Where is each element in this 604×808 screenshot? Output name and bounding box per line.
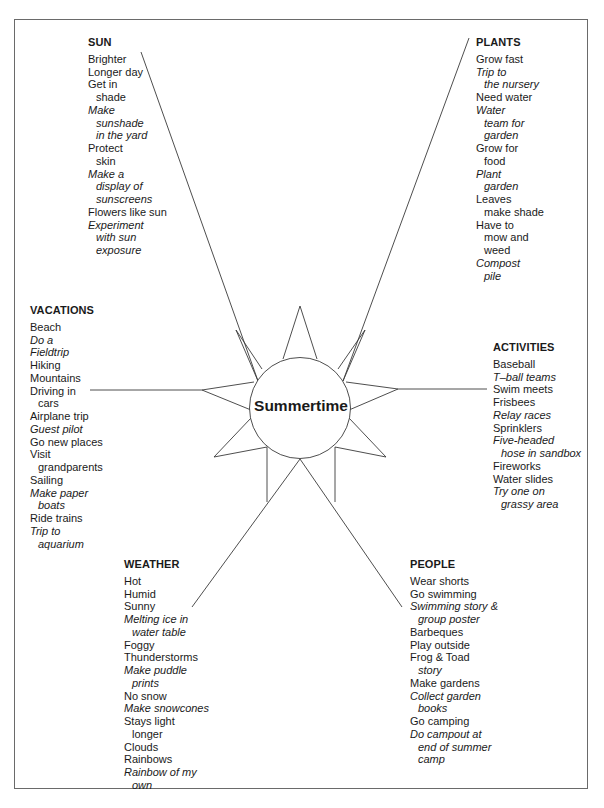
- item-text: Relay races: [493, 409, 581, 422]
- connector-people: [300, 459, 402, 607]
- item-text: Sailing: [30, 474, 103, 487]
- branch-heading: SUN: [88, 36, 167, 49]
- branch-item: Wear shorts: [410, 575, 498, 588]
- branch-heading: PEOPLE: [410, 558, 498, 571]
- branch-item: Protectskin: [88, 142, 167, 168]
- item-text: Baseball: [493, 358, 581, 371]
- item-text: Five-headed: [493, 434, 581, 447]
- branch-item: No snow: [124, 690, 209, 703]
- branch-item: Brighter: [88, 53, 167, 66]
- item-text-continuation: garden: [476, 180, 544, 193]
- branch-item: Do a: [30, 334, 103, 347]
- item-text: Compost: [476, 257, 544, 270]
- branch-item: Do campout atend of summercamp: [410, 728, 498, 766]
- ray-upper-right: [338, 330, 365, 381]
- item-text: T–ball teams: [493, 371, 581, 384]
- item-text-continuation: own: [124, 779, 209, 792]
- branch-item: Go swimming: [410, 588, 498, 601]
- item-text: Play outside: [410, 639, 498, 652]
- branch-item: Trip toaquarium: [30, 525, 103, 551]
- branch-item: Frisbees: [493, 396, 581, 409]
- item-text: Swimming story &: [410, 600, 498, 613]
- item-text-continuation: grandparents: [30, 461, 103, 474]
- item-text: Sprinklers: [493, 422, 581, 435]
- item-text: Rainbow of my: [124, 766, 209, 779]
- item-text: Experiment: [88, 219, 167, 232]
- branch-item: Swimming story &group poster: [410, 600, 498, 626]
- branch-item: Go camping: [410, 715, 498, 728]
- item-text: Clouds: [124, 741, 209, 754]
- item-text: Do campout at: [410, 728, 498, 741]
- item-text: Go new places: [30, 436, 103, 449]
- branch-item: Play outside: [410, 639, 498, 652]
- branch-item: Rainbows: [124, 753, 209, 766]
- branch-item: Hot: [124, 575, 209, 588]
- branch-item: Make snowcones: [124, 702, 209, 715]
- branch-item: Foggy: [124, 639, 209, 652]
- branch-item: Sunny: [124, 600, 209, 613]
- ray-left: [202, 382, 254, 410]
- item-text: Water: [476, 104, 544, 117]
- item-text: Beach: [30, 321, 103, 334]
- branch-item: Compostpile: [476, 257, 544, 283]
- item-text-continuation: books: [410, 702, 498, 715]
- branch-item: Make adisplay ofsunscreens: [88, 168, 167, 206]
- item-text: Melting ice in: [124, 613, 209, 626]
- branch-item: Mountains: [30, 372, 103, 385]
- branch-item: Melting ice inwater table: [124, 613, 209, 639]
- item-text: Water slides: [493, 473, 581, 486]
- item-text: Do a: [30, 334, 103, 347]
- branch-vacations: VACATIONS BeachDo aFieldtripHikingMounta…: [30, 304, 103, 550]
- branch-item: Swim meets: [493, 383, 581, 396]
- item-text: Trip to: [30, 525, 103, 538]
- item-text: Mountains: [30, 372, 103, 385]
- item-text: Frog & Toad: [410, 651, 498, 664]
- branch-item: Beach: [30, 321, 103, 334]
- item-text-continuation: aquarium: [30, 538, 103, 551]
- item-text: Swim meets: [493, 383, 581, 396]
- item-text: Make: [88, 104, 167, 117]
- item-text-continuation: cars: [30, 397, 103, 410]
- branch-item: Leavesmake shade: [476, 193, 544, 219]
- item-text-continuation: boats: [30, 499, 103, 512]
- branch-item: Flowers like sun: [88, 206, 167, 219]
- item-text: Make puddle: [124, 664, 209, 677]
- item-text-continuation: shade: [88, 91, 167, 104]
- item-text: Stays light: [124, 715, 209, 728]
- item-text: Driving in: [30, 385, 103, 398]
- branch-item: Fieldtrip: [30, 346, 103, 359]
- item-text: Go camping: [410, 715, 498, 728]
- item-text-continuation: mow and: [476, 231, 544, 244]
- branch-item: Make gardens: [410, 677, 498, 690]
- branch-item: Stays lightlonger: [124, 715, 209, 741]
- item-text: Need water: [476, 91, 544, 104]
- item-text: Guest pilot: [30, 423, 103, 436]
- central-topic: Summertime: [250, 397, 352, 415]
- item-text: Have to: [476, 219, 544, 232]
- item-text: Make gardens: [410, 677, 498, 690]
- item-text: Make snowcones: [124, 702, 209, 715]
- branch-heading: VACATIONS: [30, 304, 103, 317]
- branch-item: Experimentwith sunexposure: [88, 219, 167, 257]
- branch-heading: PLANTS: [476, 36, 544, 49]
- item-text-continuation: prints: [124, 677, 209, 690]
- item-text: Fieldtrip: [30, 346, 103, 359]
- branch-item: Need water: [476, 91, 544, 104]
- branch-item: Fireworks: [493, 460, 581, 473]
- branch-item: Baseball: [493, 358, 581, 371]
- item-text: Make a: [88, 168, 167, 181]
- item-text-continuation: grassy area: [493, 498, 581, 511]
- branch-item: Try one ongrassy area: [493, 485, 581, 511]
- item-text-continuation: weed: [476, 244, 544, 257]
- branch-heading: WEATHER: [124, 558, 209, 571]
- branch-item: Hiking: [30, 359, 103, 372]
- item-text: Make paper: [30, 487, 103, 500]
- branch-item: Visitgrandparents: [30, 448, 103, 474]
- branch-item: Guest pilot: [30, 423, 103, 436]
- item-text: Foggy: [124, 639, 209, 652]
- item-text: Leaves: [476, 193, 544, 206]
- item-text-continuation: garden: [476, 129, 544, 142]
- branch-item: Collect gardenbooks: [410, 690, 498, 716]
- item-text-continuation: in the yard: [88, 129, 167, 142]
- ray-top: [283, 306, 317, 359]
